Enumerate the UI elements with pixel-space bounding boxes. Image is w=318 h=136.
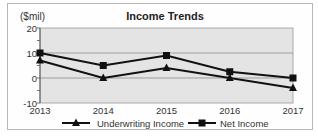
data-point <box>163 52 170 59</box>
chart-title: Income Trends <box>126 10 204 22</box>
y-tick-label: 10 <box>26 48 37 59</box>
x-tick-label: 2016 <box>219 105 240 116</box>
data-point <box>100 62 107 69</box>
square-marker-icon <box>199 120 206 127</box>
y-tick-label: 0 <box>32 73 37 84</box>
data-point <box>226 68 233 75</box>
legend-label: Net Income <box>220 118 269 129</box>
income-trends-chart: ($mil) Income Trends 20100-10 2013201420… <box>0 0 318 136</box>
y-tick-label: 20 <box>26 23 37 34</box>
x-tick-label: 2015 <box>156 105 177 116</box>
x-tick-label: 2017 <box>282 105 303 116</box>
legend-label: Underwriting Income <box>97 118 184 129</box>
legend-item: Net Income <box>188 118 269 129</box>
x-tick-label: 2013 <box>29 105 50 116</box>
legend-item: Underwriting Income <box>62 118 184 129</box>
data-point <box>290 75 297 82</box>
y-axis-unit-label: ($mil) <box>20 11 45 22</box>
x-tick-label: 2014 <box>93 105 114 116</box>
data-point <box>37 50 44 57</box>
